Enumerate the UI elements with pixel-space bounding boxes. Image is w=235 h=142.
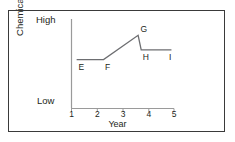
y-tick-label-low: Low bbox=[37, 96, 54, 106]
y-axis-label: Chemical level bbox=[14, 0, 26, 44]
point-label-g: G bbox=[141, 25, 148, 34]
x-tick-label-3: 3 bbox=[116, 110, 130, 119]
x-tick-label-5: 5 bbox=[167, 110, 181, 119]
x-axis-label: Year bbox=[0, 120, 235, 129]
chart-figure: Chemical level High Low 1 2 3 4 5 Year E… bbox=[0, 0, 235, 142]
point-label-e: E bbox=[79, 63, 85, 72]
x-tick-label-2: 2 bbox=[90, 110, 104, 119]
x-tick-label-4: 4 bbox=[142, 110, 156, 119]
point-label-i: I bbox=[169, 53, 171, 62]
point-label-h: H bbox=[143, 53, 149, 62]
x-tick-label-1: 1 bbox=[65, 110, 79, 119]
y-tick-label-high: High bbox=[36, 15, 56, 25]
data-line-efghi bbox=[77, 35, 172, 59]
point-label-f: F bbox=[105, 63, 110, 72]
